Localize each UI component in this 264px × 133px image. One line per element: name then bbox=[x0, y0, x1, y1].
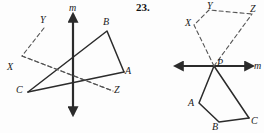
label-point-C-left: C bbox=[16, 85, 23, 95]
label-point-Z-right: Z bbox=[250, 4, 256, 14]
solid-quadrilateral-PABC bbox=[199, 66, 249, 122]
label-point-Z-left: Z bbox=[114, 85, 120, 95]
label-line-m-left: m bbox=[69, 3, 76, 13]
segment-P-to-C bbox=[214, 66, 249, 118]
label-point-B-right: B bbox=[212, 122, 218, 132]
label-point-X-right: X bbox=[185, 18, 191, 28]
label-point-C-right: C bbox=[251, 116, 258, 126]
label-point-A-left: A bbox=[125, 66, 131, 76]
left-figure bbox=[22, 14, 124, 115]
label-line-m-right: m bbox=[254, 61, 261, 71]
label-point-X-left: X bbox=[7, 62, 13, 72]
label-point-A-right: A bbox=[188, 98, 194, 108]
label-point-B-left: B bbox=[103, 17, 109, 27]
label-point-Y-right: Y bbox=[207, 1, 213, 11]
solid-triangle-CBA bbox=[28, 31, 124, 92]
figure-page: 23. m C B A Y X Z m P A B C bbox=[0, 0, 264, 133]
label-point-P-right: P bbox=[217, 58, 223, 68]
label-point-Y-left: Y bbox=[40, 15, 46, 25]
segment-C-to-A bbox=[28, 72, 124, 92]
